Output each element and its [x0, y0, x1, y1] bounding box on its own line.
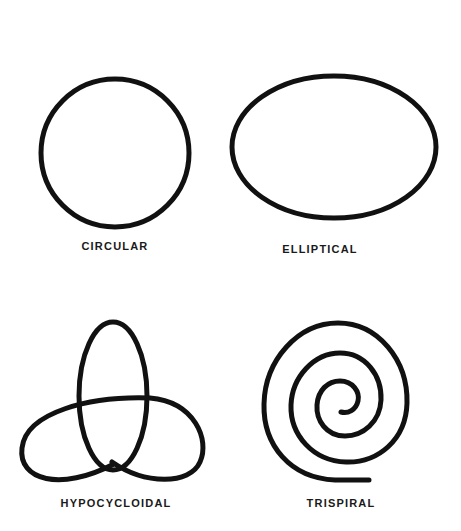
elliptical-label: ELLIPTICAL — [240, 243, 400, 255]
circular-shape — [41, 79, 189, 227]
hypocycloidal-label: HYPOCYCLOIDAL — [36, 497, 196, 509]
trispiral-label: TRISPIRAL — [261, 497, 421, 509]
motion-patterns-diagram — [0, 0, 461, 531]
hypocycloidal-shape — [22, 322, 203, 480]
circular-label: CIRCULAR — [35, 240, 195, 252]
trispiral-shape — [264, 323, 407, 480]
elliptical-shape — [232, 76, 436, 218]
